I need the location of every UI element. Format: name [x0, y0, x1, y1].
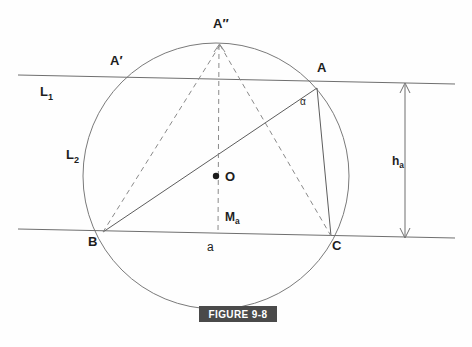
label-B: B — [88, 235, 97, 248]
label-A-prime: A′ — [110, 54, 123, 67]
label-Ma-letter: M — [225, 210, 235, 224]
segment-A-C — [317, 88, 331, 236]
label-L1-subscript: 1 — [48, 92, 53, 102]
segment-Adoubleprime-B — [103, 45, 220, 232]
label-L2-letter: L — [66, 147, 74, 162]
label-L1: L1 — [40, 85, 53, 102]
figure-9-8-page: A″ A′ A B C O L1 L2 Ma ha a α FIGURE 9-8 — [0, 0, 472, 347]
label-L2-subscript: 2 — [74, 155, 79, 165]
label-L2: L2 — [66, 148, 79, 165]
label-L1-letter: L — [40, 84, 48, 99]
label-C: C — [332, 239, 341, 252]
label-A-double-prime: A″ — [213, 17, 229, 30]
label-A: A — [317, 61, 326, 74]
label-ha: ha — [392, 155, 404, 170]
segment-Adoubleprime-Ma — [218, 45, 219, 234]
label-angle-alpha: α — [300, 97, 306, 107]
figure-caption: FIGURE 9-8 — [199, 306, 277, 322]
geometry-diagram — [0, 0, 472, 347]
center-point-O — [213, 173, 219, 179]
label-Ma-subscript: a — [235, 216, 240, 226]
line-L2 — [18, 229, 455, 238]
segment-A-B — [103, 88, 317, 232]
label-side-a: a — [207, 241, 214, 253]
segment-Adoubleprime-C — [220, 45, 331, 236]
label-ha-subscript: a — [399, 160, 404, 170]
label-O: O — [225, 170, 235, 183]
line-L1 — [18, 75, 455, 84]
label-Ma: Ma — [225, 211, 240, 226]
